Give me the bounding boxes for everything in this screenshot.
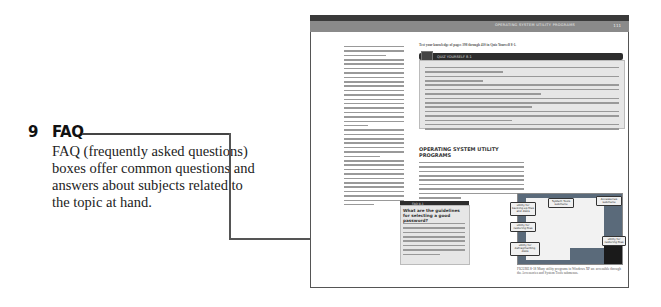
figure-screenshot: utility for backing up files and disks S… [517, 193, 623, 265]
figure-callout: utility for restoring files [510, 222, 536, 232]
section-body-text [419, 159, 524, 201]
section-heading: OPERATING SYSTEM UTILITY PROGRAMS [419, 147, 519, 158]
figure-callout: utility for restoring files [602, 236, 626, 246]
quiz-intro: Test your knowledge of pages 398 through… [419, 43, 622, 47]
textbook-page-thumbnail: OPERATING SYSTEM UTILITY PROGRAMS 111 Te… [310, 15, 635, 300]
callout-number: 9 [28, 123, 38, 141]
figure-callout: utility for defragmenting disks [510, 242, 540, 256]
figure-callout: Accessories submenu [596, 196, 622, 206]
leader-line-vertical [229, 133, 231, 239]
page-number: 111 [613, 23, 621, 28]
left-column-text [344, 43, 404, 208]
figure-caption: FIGURE 8-18 Many utility programs in Win… [517, 267, 625, 276]
callout-description: FAQ (frequently asked questions) boxes o… [52, 143, 257, 211]
faq-answer-text [403, 220, 465, 258]
quiz-bar-label: QUIZ YOURSELF 8-1 [437, 55, 472, 59]
quiz-yourself-box [419, 60, 625, 129]
page-header-text: OPERATING SYSTEM UTILITY PROGRAMS [495, 23, 575, 27]
page-header-bar: OPERATING SYSTEM UTILITY PROGRAMS 111 [310, 15, 629, 32]
figure-callout: utility for backing up files and disks [510, 202, 536, 216]
figure-callout: System Tools submenu [548, 198, 574, 208]
callout-title: FAQ [52, 123, 83, 141]
callout-title-rule [82, 133, 230, 135]
quiz-yourself-bar: QUIZ YOURSELF 8-1 [419, 53, 623, 60]
